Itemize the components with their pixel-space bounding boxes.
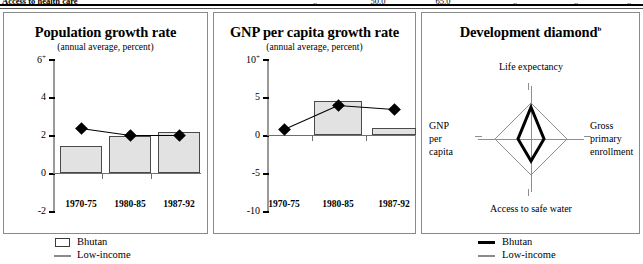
table-rule-thick [0, 4, 643, 6]
y-label-0-gnp: 0 [222, 129, 260, 140]
chart-title-population: Population growth rate [4, 24, 207, 41]
legend-right-lowincome-swatch [478, 255, 495, 257]
diamond-label-gross-primary-enrollment: Gross primary enrollment [590, 119, 633, 158]
y-label-4: 4 [14, 91, 46, 102]
y-label-2: 2 [14, 129, 46, 140]
legend-right-bhutan-swatch [478, 241, 495, 244]
y-tick-neg10-gnp [263, 211, 269, 213]
x-tick-2-gnp [366, 136, 367, 141]
y-label-10-gnp: 10+ [222, 53, 260, 65]
legend-right-lowincome-label: Low-income [502, 249, 556, 260]
y-label-10-text: 10 [246, 54, 256, 65]
x-label-1987-92-gnp: 1987-92 [359, 199, 429, 209]
y-label-6-suffix: + [42, 53, 46, 61]
y-label-10-suffix: + [256, 53, 260, 61]
diamond-label-enroll-line-2: primary [590, 132, 633, 145]
line-segment-2-population [130, 135, 179, 136]
diamond-label-access-safe-water: Access to safe water [446, 203, 616, 215]
y-label-neg5-gnp: -5 [222, 167, 260, 178]
legend-right-bhutan-label: Bhutan [502, 236, 532, 247]
chart-panel-gnp-growth: GNP per capita growth rate (annual avera… [213, 12, 416, 234]
diamond-polygons [478, 86, 584, 192]
x-tick-2-population [151, 174, 152, 179]
line-segment-1-population [81, 128, 130, 136]
legend-left: Bhutan Low-income [0, 236, 210, 264]
marker-1970-75-population [75, 122, 88, 135]
y-tick-4 [49, 97, 55, 99]
diamond-label-gnp-line-3: capita [429, 145, 453, 158]
diamond-label-life-expectancy: Life expectancy [451, 61, 611, 73]
legend-left-lowincome-swatch [54, 255, 71, 257]
table-header-strip: Access to health care .. 50.0 65.0 .. ..… [0, 0, 643, 11]
figure-sheet: Access to health care .. 50.0 65.0 .. ..… [0, 0, 643, 264]
diamond-label-gnp-line-2: per [429, 132, 453, 145]
zero-baseline-gnp [267, 135, 415, 136]
chart-title-diamond: Development diamondb [422, 24, 639, 41]
diamond-low-income-polygon [495, 103, 567, 175]
bar-1987-92-gnp [372, 128, 416, 135]
diamond-bhutan-polygon [518, 107, 544, 161]
chart-subtitle-gnp: (annual average, percent) [214, 42, 415, 52]
chart-panel-development-diamond: Development diamondb Life expectancy Acc… [421, 12, 640, 234]
x-label-1987-92-population: 1987-92 [144, 199, 214, 209]
legend-left-lowincome-label: Low-income [77, 249, 131, 260]
y-tick-5-gnp [263, 97, 269, 99]
diamond-label-gnp-line-1: GNP [429, 119, 453, 132]
y-label-0: 0 [14, 167, 46, 178]
bar-1970-75-population [60, 146, 102, 173]
y-tick-6 [49, 59, 55, 61]
y-label-neg2: -2 [14, 205, 46, 216]
chart-title-diamond-text: Development diamond [460, 24, 598, 40]
legend-left-bhutan-label: Bhutan [77, 236, 107, 247]
y-label-6: 6+ [14, 53, 46, 65]
y-tick-neg2 [49, 211, 55, 213]
diamond-label-gnp-per-capita: GNP per capita [429, 119, 453, 158]
y-label-5-gnp: 5 [222, 91, 260, 102]
y-tick-neg5-gnp [263, 173, 269, 175]
zero-baseline-population [53, 173, 201, 174]
legend-left-bhutan-swatch [55, 238, 70, 247]
marker-1987-92-gnp [388, 103, 401, 116]
chart-title-gnp: GNP per capita growth rate [214, 24, 415, 41]
y-tick-10-gnp [263, 59, 269, 61]
chart-title-diamond-superscript: b [598, 25, 602, 33]
chart-subtitle-population: (annual average, percent) [4, 42, 207, 52]
table-rule-thin [0, 8, 643, 9]
marker-1970-75-gnp [278, 123, 291, 136]
legend-right: Bhutan Low-income [420, 236, 643, 264]
chart-panel-population-growth: Population growth rate (annual average, … [3, 12, 208, 234]
x-tick-1-population [102, 174, 103, 179]
x-tick-1-gnp [312, 136, 313, 141]
y-tick-2 [49, 135, 55, 137]
diamond-label-enroll-line-3: enrollment [590, 145, 633, 158]
diamond-label-enroll-line-1: Gross [590, 119, 633, 132]
